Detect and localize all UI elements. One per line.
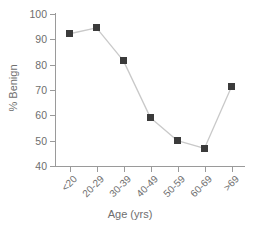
data-point — [174, 137, 181, 144]
y-axis-title: % Benign — [7, 28, 19, 148]
chart-container: 405060708090100 <2020-2930-3940-4950-596… — [0, 0, 260, 232]
data-point — [147, 114, 154, 121]
data-point — [120, 57, 127, 64]
x-axis-title: Age (yrs) — [0, 208, 260, 220]
data-point — [93, 24, 100, 31]
data-point — [201, 145, 208, 152]
series-line — [0, 0, 260, 232]
data-point — [228, 83, 235, 90]
data-point — [66, 30, 73, 37]
